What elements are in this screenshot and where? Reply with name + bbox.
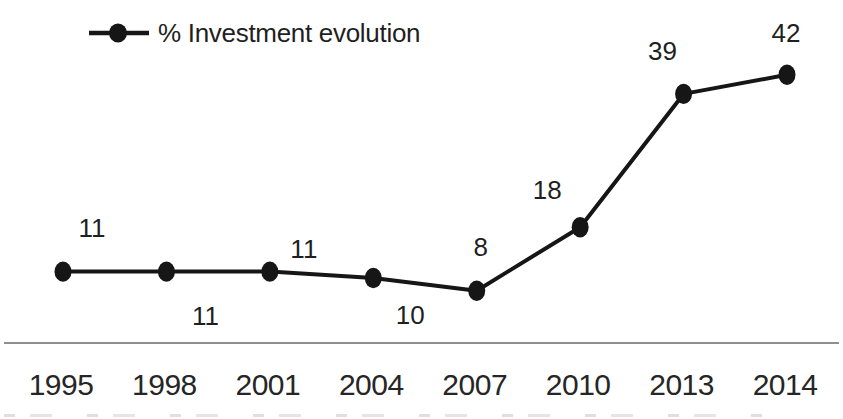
data-point-marker-2013 (675, 84, 692, 104)
x-axis-tick-label-1998: 1998 (132, 368, 197, 401)
data-point-marker-1998 (158, 261, 175, 281)
data-label-2010: 18 (533, 175, 562, 205)
data-point-marker-1995 (55, 261, 72, 281)
data-point-marker-2001 (261, 261, 278, 281)
chart-container: % Investment evolution 11111110818394219… (0, 0, 843, 419)
x-axis-tick-label-2004: 2004 (339, 368, 404, 401)
data-label-1998: 11 (192, 301, 219, 331)
data-point-marker-2014 (779, 65, 796, 85)
data-point-marker-2010 (572, 217, 589, 237)
data-label-2014: 42 (772, 18, 801, 48)
x-axis-tick-label-2010: 2010 (546, 368, 611, 401)
x-axis-tick-label-1995: 1995 (29, 368, 94, 401)
data-point-marker-2004 (365, 268, 382, 288)
data-label-2004: 10 (396, 300, 425, 330)
data-label-1995: 11 (79, 213, 106, 243)
data-point-marker-2007 (468, 281, 485, 301)
x-axis-tick-label-2014: 2014 (753, 368, 818, 401)
data-label-2001: 11 (290, 234, 317, 264)
data-label-2013: 39 (648, 36, 677, 66)
line-chart-plot: 1111111081839421995199820012004200720102… (0, 0, 843, 419)
series-line (63, 75, 787, 291)
x-axis-tick-label-2001: 2001 (235, 368, 300, 401)
x-axis-tick-label-2007: 2007 (442, 368, 507, 401)
x-axis-tick-label-2013: 2013 (649, 368, 714, 401)
data-label-2007: 8 (473, 232, 487, 262)
